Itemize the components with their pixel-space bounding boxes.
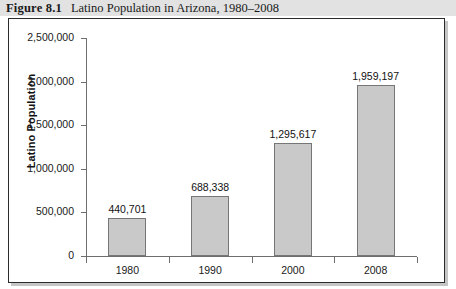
y-axis-tick-label: 1,500,000 — [27, 118, 74, 130]
y-axis-tick — [81, 125, 87, 126]
bar — [191, 196, 229, 256]
caption-band: Figure 8.1Latino Population in Arizona, … — [0, 0, 456, 16]
x-axis-tick-label: 1980 — [89, 264, 165, 276]
y-axis-tick-label: 1,000,000 — [27, 162, 74, 174]
y-axis-tick-label: 0 — [68, 249, 74, 261]
x-axis-tick — [169, 257, 170, 263]
bar — [108, 218, 146, 256]
figure-screenshot: Figure 8.1Latino Population in Arizona, … — [0, 0, 456, 289]
x-axis-tick-label: 2008 — [338, 264, 414, 276]
figure-number: Figure 8.1 — [6, 1, 62, 15]
bar — [274, 143, 312, 256]
x-axis-tick-label: 2000 — [255, 264, 331, 276]
bar-value-label: 1,959,197 — [331, 70, 421, 82]
x-axis-tick — [86, 257, 87, 263]
x-axis-tick — [252, 257, 253, 263]
bar-value-label: 688,338 — [165, 181, 255, 193]
bar — [357, 85, 395, 256]
bar-value-label: 440,701 — [82, 203, 172, 215]
y-axis-tick — [81, 82, 87, 83]
figure-title: Latino Population in Arizona, 1980–2008 — [62, 1, 279, 15]
y-axis-tick — [81, 38, 87, 39]
x-axis-tick — [417, 257, 418, 263]
x-axis-tick — [334, 257, 335, 263]
bar-value-label: 1,295,617 — [248, 128, 338, 140]
bar-chart: Latino Population 0500,0001,000,0001,500… — [9, 19, 446, 284]
figure-caption: Figure 8.1Latino Population in Arizona, … — [6, 0, 279, 16]
y-axis-tick-label: 500,000 — [36, 205, 74, 217]
y-axis-tick — [81, 169, 87, 170]
y-axis-line — [86, 38, 87, 257]
figure-card: Latino Population 0500,0001,000,0001,500… — [8, 18, 445, 283]
y-axis-tick-label: 2,500,000 — [27, 31, 74, 43]
y-axis-tick-label: 2,000,000 — [27, 75, 74, 87]
x-axis-tick-label: 1990 — [172, 264, 248, 276]
